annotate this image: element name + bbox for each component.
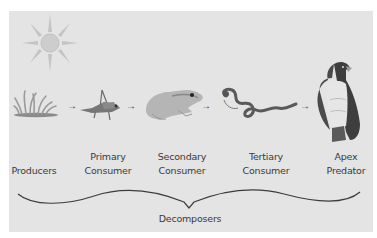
frog-icon <box>142 86 206 122</box>
arrow-icon: → <box>126 100 136 111</box>
label-line: Consumer <box>152 164 212 178</box>
label-tertiary-consumer: Tertiary Consumer <box>238 150 294 178</box>
label-line: Primary <box>80 150 136 164</box>
grasshopper-icon <box>78 88 124 122</box>
arrow-icon: → <box>300 100 310 111</box>
label-line: Tertiary <box>238 150 294 164</box>
label-producers: Producers <box>9 164 59 178</box>
label-decomposers: Decomposers <box>150 212 230 226</box>
label-line: Producers <box>9 164 59 178</box>
label-primary-consumer: Primary Consumer <box>80 150 136 178</box>
label-line: Predator <box>318 164 374 178</box>
arrow-icon: → <box>67 100 77 111</box>
snake-icon <box>216 86 300 122</box>
arrow-icon: → <box>201 100 211 111</box>
eagle-icon <box>312 60 364 148</box>
label-apex-predator: Apex Predator <box>318 150 374 178</box>
label-line: Consumer <box>238 164 294 178</box>
label-line: Secondary <box>152 150 212 164</box>
label-line: Apex <box>318 150 374 164</box>
label-secondary-consumer: Secondary Consumer <box>152 150 212 178</box>
grass-icon <box>12 88 60 118</box>
sun-icon <box>20 14 80 72</box>
label-line: Consumer <box>80 164 136 178</box>
